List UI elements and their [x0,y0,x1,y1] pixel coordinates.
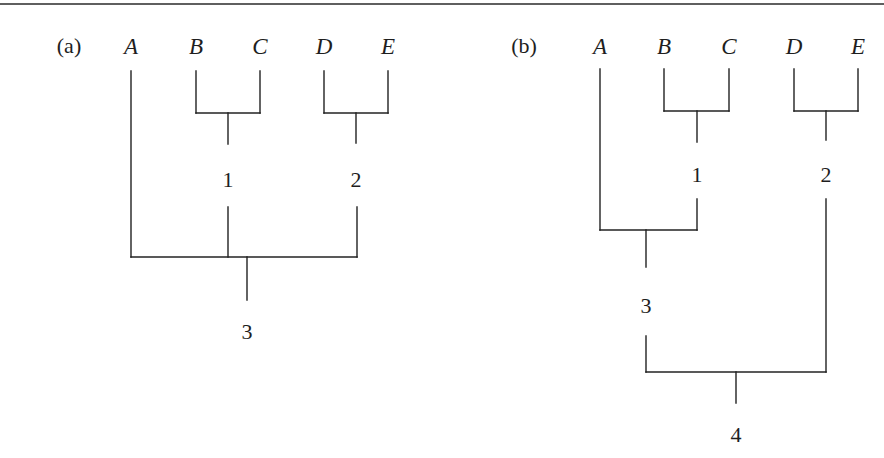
panel-b-node-1: 1 [692,164,703,186]
panel-a-node-3: 3 [242,321,253,343]
panel-b-node-4: 4 [731,424,742,446]
panel-b-leaf-e: E [851,35,865,58]
dendrogram-figure: (a) A B C D E 1 2 3 (b) A B C D E 1 2 3 … [0,0,884,458]
panel-a-leaf-c: C [252,35,267,58]
panel-b-node-2: 2 [821,164,832,186]
panel-a-leaf-a: A [124,35,138,58]
panel-b-leaf-d: D [786,35,803,58]
panel-a-tag: (a) [57,35,81,57]
panel-a-leaf-b: B [189,35,203,58]
panel-b-node-3: 3 [641,295,652,317]
panel-a-node-1: 1 [223,169,234,191]
panel-b-tag: (b) [511,35,537,57]
panel-a-node-2: 2 [351,169,362,191]
panel-b-leaf-c: C [721,35,736,58]
panel-b-leaf-a: A [593,35,607,58]
panel-a-leaf-e: E [381,35,395,58]
tree-lines [0,0,884,458]
panel-a-leaf-d: D [316,35,333,58]
panel-b-leaf-b: B [657,35,671,58]
